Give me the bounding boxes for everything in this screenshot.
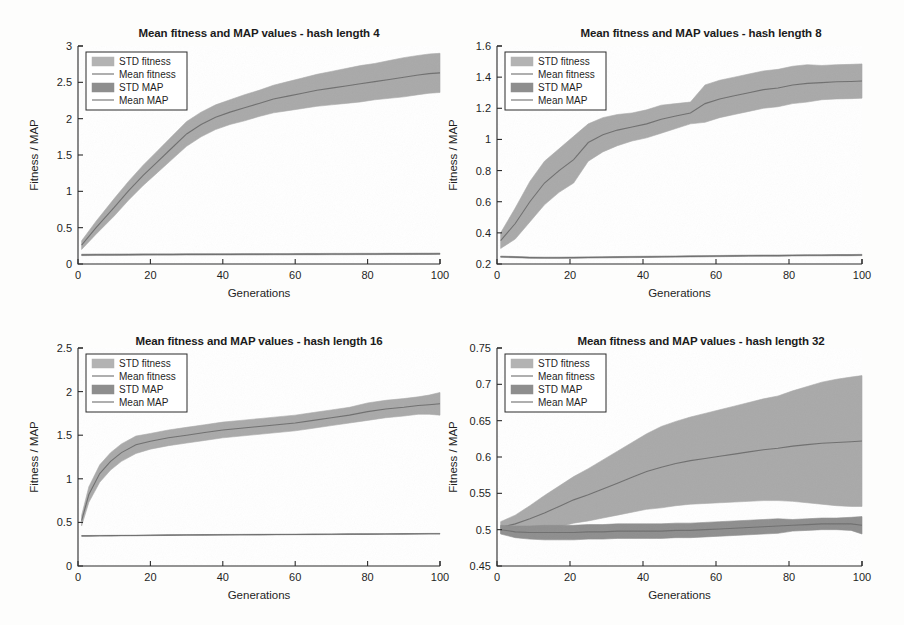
chart-panel-hash-length-4[interactable]: Mean fitness and MAP values - hash lengt… — [0, 0, 452, 312]
legend-label: Mean MAP — [119, 397, 169, 408]
x-tick-label: 100 — [853, 269, 871, 281]
legend-label: Mean MAP — [538, 95, 588, 106]
x-tick-label: 80 — [783, 269, 795, 281]
y-tick-label: 0 — [66, 560, 72, 572]
y-tick-label: 0.2 — [476, 258, 491, 270]
x-tick-label: 40 — [637, 269, 649, 281]
legend-label: Mean MAP — [119, 95, 169, 106]
x-tick-label: 0 — [494, 571, 500, 583]
y-tick-label: 1.2 — [476, 102, 491, 114]
x-tick-label: 40 — [217, 571, 229, 583]
y-tick-label: 0.65 — [470, 415, 491, 427]
legend-label: STD MAP — [538, 82, 583, 93]
legend-label: Mean fitness — [538, 69, 595, 80]
y-tick-label: 0 — [66, 258, 72, 270]
y-tick-label: 1.5 — [57, 429, 72, 441]
y-tick-label: 1 — [485, 133, 491, 145]
legend-swatch-patch — [511, 385, 533, 394]
legend-label: Mean fitness — [119, 69, 176, 80]
y-tick-label: 3 — [66, 40, 72, 52]
y-tick-label: 0.8 — [476, 165, 491, 177]
chart-title: Mean fitness and MAP values - hash lengt… — [76, 27, 442, 39]
y-tick-label: 2.5 — [57, 342, 72, 354]
figure-canvas: Mean fitness and MAP values - hash lengt… — [0, 0, 904, 625]
legend-label: Mean fitness — [119, 371, 176, 382]
y-tick-label: 0.5 — [57, 516, 72, 528]
x-tick-label: 60 — [710, 571, 722, 583]
x-tick-label: 20 — [144, 571, 156, 583]
legend-label: Mean fitness — [538, 371, 595, 382]
y-tick-label: 1.4 — [476, 71, 491, 83]
x-tick-label: 0 — [494, 269, 500, 281]
legend-label: STD MAP — [119, 82, 164, 93]
x-tick-label: 80 — [783, 571, 795, 583]
x-tick-label: 60 — [710, 269, 722, 281]
y-tick-label: 1 — [66, 185, 72, 197]
x-tick-label: 80 — [361, 269, 373, 281]
x-tick-label: 60 — [289, 571, 301, 583]
legend-swatch-patch — [92, 83, 114, 92]
y-tick-label: 0.5 — [57, 222, 72, 234]
y-tick-label: 1.6 — [476, 40, 491, 52]
chart-svg[interactable]: 0.20.40.60.811.21.41.6020406080100Genera… — [452, 0, 904, 312]
legend-swatch-patch — [511, 359, 533, 368]
chart-title: Mean fitness and MAP values - hash lengt… — [518, 335, 884, 347]
y-tick-label: 0.7 — [476, 378, 491, 390]
x-tick-label: 100 — [431, 571, 449, 583]
chart-svg[interactable]: 00.511.522.5020406080100GenerationsFitne… — [0, 312, 452, 625]
x-tick-label: 0 — [75, 571, 81, 583]
legend-label: STD fitness — [538, 56, 590, 67]
legend-label: STD fitness — [119, 56, 171, 67]
y-tick-label: 1 — [66, 473, 72, 485]
legend-label: STD MAP — [538, 384, 583, 395]
x-tick-label: 40 — [217, 269, 229, 281]
x-tick-label: 100 — [853, 571, 871, 583]
y-tick-label: 2 — [66, 113, 72, 125]
legend-label: STD fitness — [119, 358, 171, 369]
y-axis-label: Fitness / MAP — [447, 421, 459, 493]
chart-panel-hash-length-32[interactable]: Mean fitness and MAP values - hash lengt… — [452, 312, 904, 625]
chart-svg[interactable]: 00.511.522.53020406080100GenerationsFitn… — [0, 0, 452, 312]
y-axis-label: Fitness / MAP — [447, 119, 459, 191]
chart-title: Mean fitness and MAP values - hash lengt… — [518, 27, 884, 39]
y-tick-label: 0.6 — [476, 196, 491, 208]
chart-panel-hash-length-8[interactable]: Mean fitness and MAP values - hash lengt… — [452, 0, 904, 312]
y-tick-label: 1.5 — [57, 149, 72, 161]
y-tick-label: 0.6 — [476, 451, 491, 463]
y-tick-label: 0.45 — [470, 560, 491, 572]
legend-swatch-patch — [511, 57, 533, 66]
x-axis-label: Generations — [648, 589, 711, 601]
y-tick-label: 0.5 — [476, 524, 491, 536]
chart-panel-hash-length-16[interactable]: Mean fitness and MAP values - hash lengt… — [0, 312, 452, 625]
y-tick-label: 0.55 — [470, 487, 491, 499]
x-axis-label: Generations — [228, 287, 291, 299]
y-tick-label: 0.75 — [470, 342, 491, 354]
y-tick-label: 0.4 — [476, 227, 491, 239]
legend-label: STD fitness — [538, 358, 590, 369]
legend-label: STD MAP — [119, 384, 164, 395]
x-tick-label: 80 — [361, 571, 373, 583]
x-tick-label: 60 — [289, 269, 301, 281]
y-tick-label: 2.5 — [57, 76, 72, 88]
legend-label: Mean MAP — [538, 397, 588, 408]
x-tick-label: 100 — [431, 269, 449, 281]
y-axis-label: Fitness / MAP — [28, 421, 40, 493]
y-tick-label: 2 — [66, 386, 72, 398]
x-tick-label: 40 — [637, 571, 649, 583]
y-axis-label: Fitness / MAP — [28, 119, 40, 191]
x-tick-label: 20 — [564, 571, 576, 583]
x-tick-label: 20 — [144, 269, 156, 281]
x-tick-label: 20 — [564, 269, 576, 281]
legend-swatch-patch — [92, 359, 114, 368]
x-axis-label: Generations — [228, 589, 291, 601]
x-axis-label: Generations — [648, 287, 711, 299]
legend-swatch-patch — [511, 83, 533, 92]
legend-swatch-patch — [92, 385, 114, 394]
legend-swatch-patch — [92, 57, 114, 66]
chart-svg[interactable]: 0.450.50.550.60.650.70.75020406080100Gen… — [452, 312, 904, 625]
x-tick-label: 0 — [75, 269, 81, 281]
chart-title: Mean fitness and MAP values - hash lengt… — [76, 335, 442, 347]
